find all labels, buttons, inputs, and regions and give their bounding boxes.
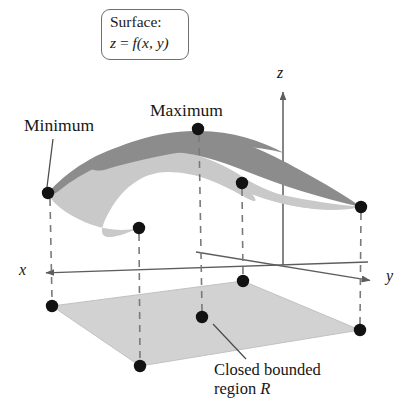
x-axis-line (46, 262, 368, 273)
region-corner-back (237, 275, 249, 287)
saddle-surface-point (236, 177, 248, 189)
region-corner-front (134, 360, 146, 372)
z-axis-label: z (277, 64, 283, 83)
region-interior-point (196, 311, 208, 323)
right-surface-point (355, 201, 367, 213)
surface-box-line2: z = f(x, y) (110, 34, 169, 52)
surface-box-args: (x, y) (137, 34, 169, 51)
maximum-label: Maximum (150, 100, 223, 121)
figure-graphics (0, 0, 412, 413)
surface-box-line1: Surface: (110, 13, 162, 31)
region-corner-left (46, 300, 58, 312)
region-caption-line2: region R (214, 379, 321, 398)
closed-bounded-region-polygon (52, 281, 360, 366)
region-caption: Closed bounded region R (214, 360, 321, 399)
region-caption-r: R (260, 379, 270, 398)
dashed-drop-saddle (242, 189, 243, 275)
minimum-surface-point (42, 187, 54, 199)
y-axis-label: y (386, 267, 393, 286)
surface-equation-box: Surface: z = f(x, y) (101, 9, 189, 60)
front-dip-surface-point (133, 222, 145, 234)
region-caption-pre: region (214, 379, 260, 398)
minimum-label: Minimum (24, 115, 94, 136)
minimum-leader-line (47, 139, 53, 187)
x-axis-label: x (19, 261, 26, 280)
region-corner-right (354, 324, 366, 336)
surface-maximum-minimum-figure: Surface: z = f(x, y) Minimum Maximum x y… (0, 0, 412, 413)
dashed-drop-right (360, 213, 361, 324)
dashed-drop-minimum (50, 199, 52, 300)
region-caption-line1: Closed bounded (214, 360, 321, 379)
surface-box-equals: = (116, 34, 133, 51)
maximum-surface-point (192, 123, 204, 135)
